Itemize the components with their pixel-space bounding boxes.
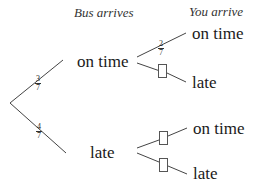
prob-root-late: 4 7 (36, 123, 42, 140)
stage2-late-late-label: late (193, 165, 218, 182)
prob-denominator: 7 (159, 49, 163, 57)
stage2-ontime-ontime-label: on time (192, 25, 243, 42)
prob-denominator: 7 (36, 84, 40, 92)
stage2-late-ontime-label: on time (193, 120, 244, 137)
header-you-arrive: You arrive (189, 5, 243, 18)
branch-late-ontime-b (168, 128, 187, 136)
branch-late-late-a (137, 153, 159, 162)
branch-ontime-late-b (167, 73, 186, 82)
stage2-ontime-late-label: late (192, 74, 217, 91)
prob-denominator: 7 (37, 132, 41, 140)
branch-ontime-late-a (137, 63, 160, 71)
blank-box-ontime-late[interactable] (158, 64, 167, 78)
header-bus-arrives: Bus arrives (74, 6, 134, 19)
branch-late-late-b (168, 166, 187, 174)
branch-late-ontime-a (137, 140, 159, 148)
stage1-late-label: late (90, 144, 115, 161)
prob-ontime-ontime: 2 7 (158, 40, 164, 57)
stage1-ontime-label: on time (77, 53, 128, 70)
blank-box-late-ontime[interactable] (159, 131, 168, 145)
blank-box-late-late[interactable] (159, 158, 168, 172)
prob-root-ontime: 3 7 (35, 75, 41, 92)
